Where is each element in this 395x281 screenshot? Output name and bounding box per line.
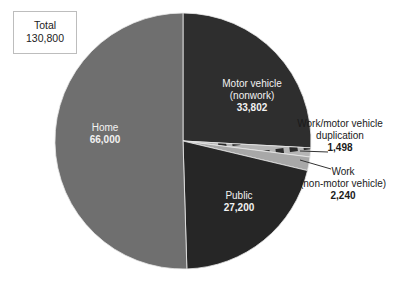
slice-label-text: Motor vehicle bbox=[210, 78, 294, 90]
slice-label-text: duplication bbox=[290, 130, 390, 142]
slice-label-home: Home 66,000 bbox=[80, 122, 130, 146]
slice-value: 2,240 bbox=[293, 190, 393, 202]
slice-label-work-motor-duplication: Work/motor vehicle duplication 1,498 bbox=[290, 118, 390, 154]
slice-value: 33,802 bbox=[210, 102, 294, 114]
slice-label-text: Work/motor vehicle bbox=[290, 118, 390, 130]
slice-label-text: Work bbox=[293, 166, 393, 178]
slice-label-text: Public bbox=[214, 190, 264, 202]
slice-value: 66,000 bbox=[80, 134, 130, 146]
total-box: Total 130,800 bbox=[13, 11, 77, 54]
slice-value: 27,200 bbox=[214, 202, 264, 214]
slice-label-text: (non-motor vehicle) bbox=[293, 178, 393, 190]
slice-label-text: (nonwork) bbox=[210, 90, 294, 102]
pie-chart: Total 130,800 Motor vehicle (nonwork) 33… bbox=[0, 0, 395, 281]
slice-value: 1,498 bbox=[290, 142, 390, 154]
slice-label-motor-vehicle: Motor vehicle (nonwork) 33,802 bbox=[210, 78, 294, 114]
slice-label-text: Home bbox=[80, 122, 130, 134]
slice-label-public: Public 27,200 bbox=[214, 190, 264, 214]
slice-label-work-non-motor: Work (non-motor vehicle) 2,240 bbox=[293, 166, 393, 202]
total-title: Total bbox=[14, 19, 76, 32]
total-value: 130,800 bbox=[14, 32, 76, 45]
